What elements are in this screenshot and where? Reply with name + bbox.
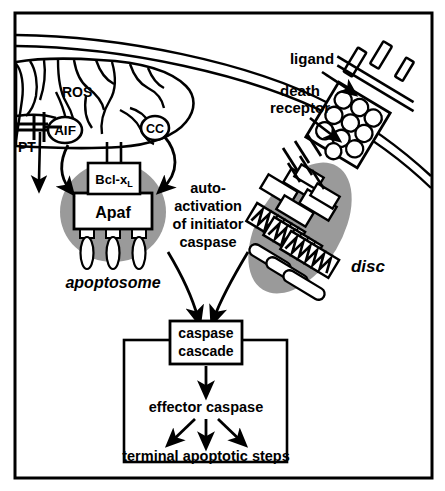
diagram-canvas: AIF CC ROS PT xyxy=(0,0,445,491)
ros-label: ROS xyxy=(62,84,92,100)
caspase-cascade-line1: caspase xyxy=(178,325,233,341)
pt-release-arrow xyxy=(39,132,40,186)
auto-activation-line1: auto- xyxy=(190,180,226,196)
cc-label: CC xyxy=(146,122,164,136)
death-receptor-label-line2: receptor xyxy=(270,99,330,116)
ligand-label: ligand xyxy=(290,50,334,67)
disc-label: disc xyxy=(351,257,386,276)
auto-activation-line2: activation xyxy=(174,198,242,214)
apaf-label: Apaf xyxy=(95,204,131,221)
aif-label: AIF xyxy=(54,123,76,138)
apoptosome-procaspases xyxy=(80,229,146,269)
caspase-cascade-line2: cascade xyxy=(178,343,233,359)
auto-activation-line4: caspase xyxy=(179,234,236,250)
pt-label: PT xyxy=(18,139,36,155)
auto-activation-line3: of initiator xyxy=(173,216,244,232)
death-receptor-label-line1: death xyxy=(280,82,320,99)
bclxl-subscript: L xyxy=(127,179,133,189)
apoptosis-pathway-figure: AIF CC ROS PT xyxy=(0,0,445,491)
bclxl-main: Bcl-x xyxy=(95,172,128,187)
terminal-steps-label: terminal apoptotic steps xyxy=(122,448,290,464)
effector-caspase-label: effector caspase xyxy=(149,399,263,415)
apoptosome-label: apoptosome xyxy=(65,274,160,291)
